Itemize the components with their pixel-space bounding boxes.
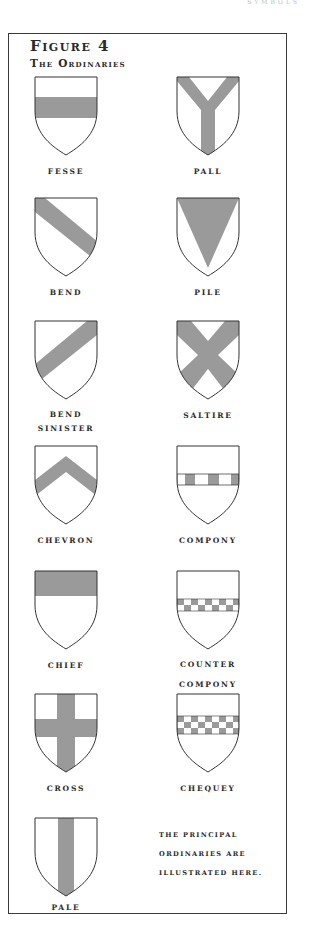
caption-line2: ORDINARIES ARE [159,845,262,864]
counter-compony-shield-icon [176,570,240,650]
chevron-shield-icon [34,445,98,525]
ordinary-pile: PILE [163,197,253,300]
figure-title: Figure 4 [30,37,110,55]
bend-shield-icon [34,197,98,277]
pall-shield-icon [176,76,240,156]
ordinary-label-line2: COMPONY [163,675,253,695]
ordinary-label: PALE [21,900,111,915]
ordinary-saltire: SALTIRE [163,320,253,423]
ordinary-fesse: FESSE [21,76,111,179]
cross-shield-icon [34,693,98,773]
ordinary-label: BEND [21,285,111,300]
ordinary-bend: BEND [21,197,111,300]
ordinary-label: CHEQUEY [163,781,253,796]
ordinary-label: FESSE [21,164,111,179]
ordinary-chevron: CHEVRON [21,445,111,548]
ordinary-label-line2: SINISTER [21,422,111,436]
chief-shield-icon [34,570,98,650]
saltire-shield-icon [176,320,240,400]
ordinary-label: CROSS [21,781,111,796]
figure-subtitle: The Ordinaries [30,57,126,69]
ordinary-label: PALL [163,164,253,179]
pile-shield-icon [176,197,240,277]
running-head: SYMBOLS [200,0,300,6]
pale-shield-icon [34,817,98,897]
ordinary-label: CHIEF [21,658,111,673]
ordinary-compony: COMPONY [163,445,253,548]
ordinary-pale: PALE [21,817,111,915]
ordinary-label: COMPONY [163,533,253,548]
ordinary-label: COUNTER COMPONY [163,655,253,695]
figure-caption: THE PRINCIPAL ORDINARIES ARE ILLUSTRATED… [159,826,262,883]
caption-line1: THE PRINCIPAL [159,826,262,845]
ordinary-chief: CHIEF [21,570,111,673]
ordinary-bend-sinister: BEND SINISTER [21,320,111,436]
ordinary-label: BEND SINISTER [21,408,111,436]
compony-shield-icon [176,445,240,525]
caption-line3: ILLUSTRATED HERE. [159,864,262,883]
bend-sinister-shield-icon [34,320,98,400]
ordinary-label: PILE [163,285,253,300]
ordinary-pall: PALL [163,76,253,179]
chequey-shield-icon [176,693,240,773]
ordinary-cross: CROSS [21,693,111,796]
ordinary-label: SALTIRE [163,408,253,423]
ordinary-counter-compony: COUNTER COMPONY [163,570,253,695]
ordinary-label: CHEVRON [21,533,111,548]
ordinary-label-line1: COUNTER [163,655,253,675]
fesse-shield-icon [34,76,98,156]
ordinary-chequey: CHEQUEY [163,693,253,796]
ordinary-label-line1: BEND [21,408,111,422]
